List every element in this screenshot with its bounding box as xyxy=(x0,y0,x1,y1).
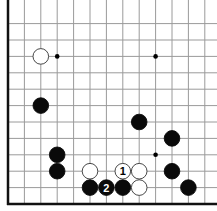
black-stone: 2 xyxy=(99,180,115,196)
move-number-label: 2 xyxy=(103,182,109,194)
go-board: 21 xyxy=(0,0,217,211)
move-number-label: 1 xyxy=(120,165,126,177)
black-stone xyxy=(181,180,197,196)
white-stone xyxy=(33,49,49,65)
white-stone xyxy=(131,163,147,179)
black-stone xyxy=(164,163,180,179)
white-stone xyxy=(131,180,147,196)
black-stone xyxy=(33,98,49,114)
star-point xyxy=(153,54,158,59)
black-stone xyxy=(115,180,131,196)
white-stone xyxy=(82,163,98,179)
black-stone xyxy=(131,114,147,130)
star-point xyxy=(153,153,158,158)
star-point xyxy=(55,54,60,59)
black-stone xyxy=(49,147,65,163)
black-stone xyxy=(164,131,180,147)
black-stone xyxy=(82,180,98,196)
white-stone: 1 xyxy=(115,163,131,179)
black-stone xyxy=(49,163,65,179)
